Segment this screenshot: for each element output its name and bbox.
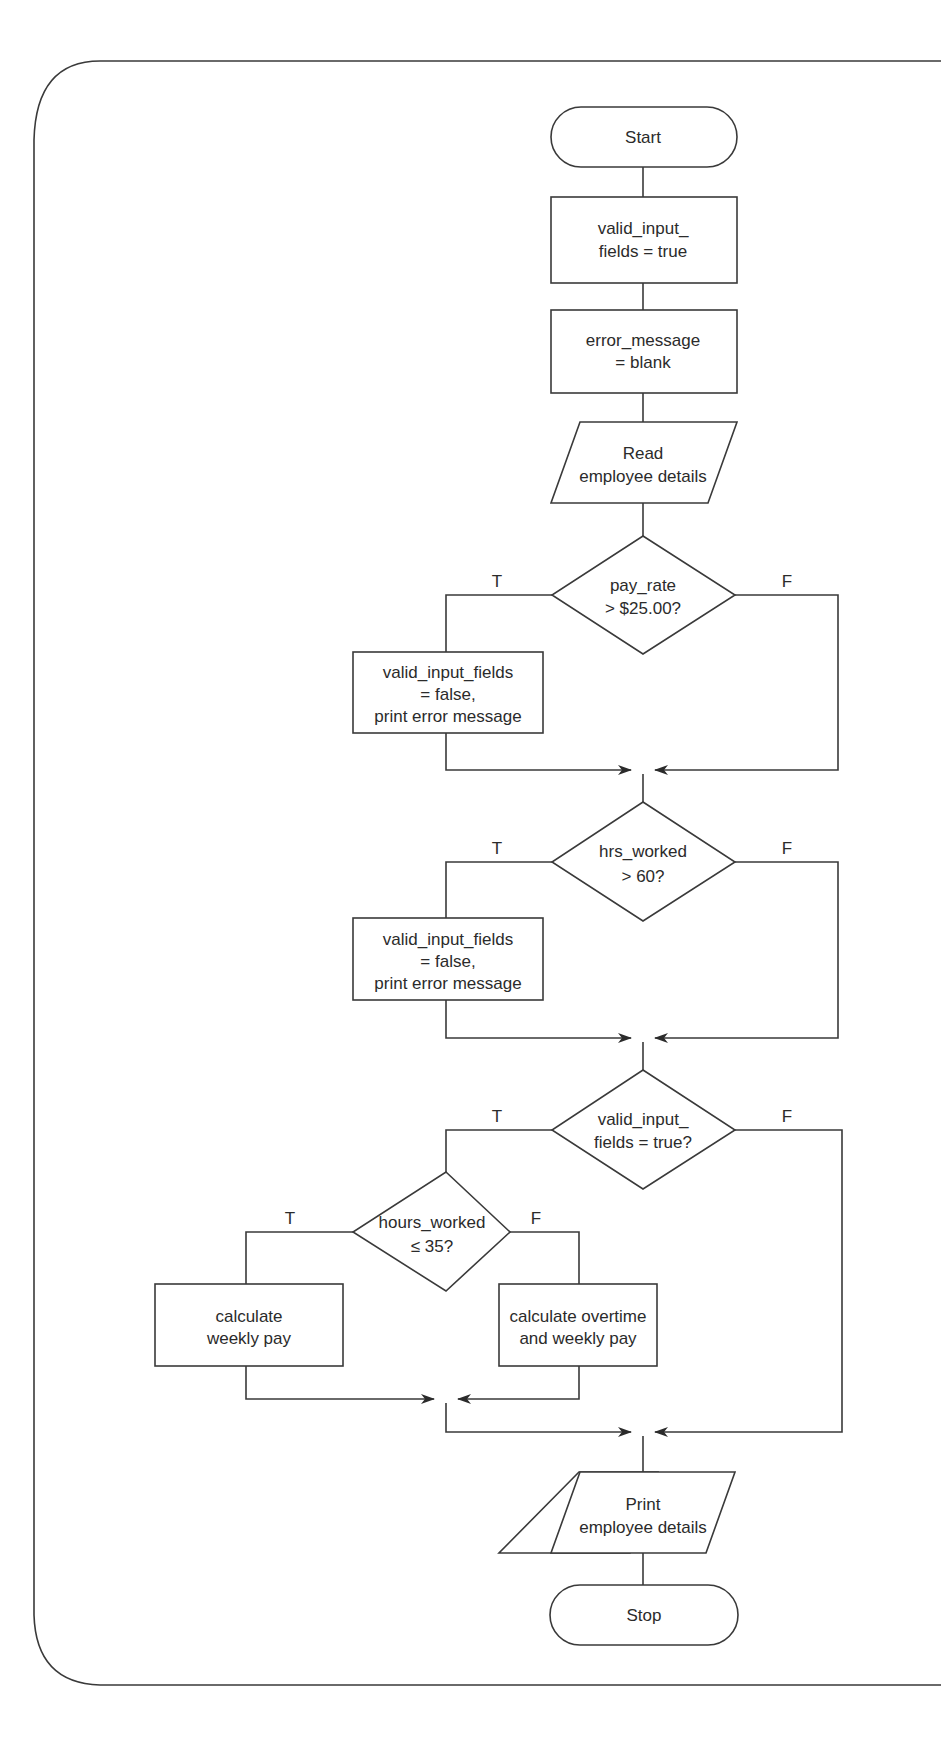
- calc-overtime-label-line1: calculate overtime: [509, 1307, 646, 1326]
- hours-35-decision: hours_worked ≤ 35?: [353, 1172, 510, 1291]
- valid-input-decision: valid_input_ fields = true?: [552, 1070, 735, 1189]
- hrs-worked-false-label: F: [782, 839, 792, 858]
- hours-35-label-line1: hours_worked: [379, 1213, 486, 1232]
- hrs-worked-decision: hrs_worked > 60?: [552, 802, 735, 921]
- print-details-label-line1: Print: [626, 1495, 661, 1514]
- init-error-label-line1: error_message: [586, 331, 700, 350]
- print-details-label-line2: employee details: [579, 1518, 707, 1537]
- page-frame: [34, 61, 941, 1685]
- hours-35-label-line2: ≤ 35?: [411, 1237, 453, 1256]
- hrs-error-process: valid_input_fields = false, print error …: [353, 918, 543, 1000]
- start-terminator: Start: [551, 107, 737, 167]
- pay-rate-decision: pay_rate > $25.00?: [552, 536, 735, 654]
- init-valid-label-line2: fields = true: [599, 242, 687, 261]
- pay-rate-false-label: F: [782, 572, 792, 591]
- calc-weekly-label-line2: weekly pay: [206, 1329, 292, 1348]
- pay-rate-error-process: valid_input_fields = false, print error …: [353, 652, 543, 733]
- hours-35-false-label: F: [531, 1209, 541, 1228]
- calc-weekly-process: calculate weekly pay: [155, 1284, 343, 1366]
- hrs-error-label-line2: = false,: [420, 952, 475, 971]
- pay-rate-label-line2: > $25.00?: [605, 599, 681, 618]
- read-details-io: Read employee details: [551, 422, 737, 503]
- valid-input-label-line1: valid_input_: [598, 1110, 689, 1129]
- read-details-label-line1: Read: [623, 444, 664, 463]
- stop-label: Stop: [627, 1606, 662, 1625]
- valid-input-false-label: F: [782, 1107, 792, 1126]
- print-details-io-shape: Print employee details: [551, 1472, 735, 1553]
- calc-overtime-label-line2: and weekly pay: [519, 1329, 637, 1348]
- flowchart-canvas: Start valid_input_ fields = true error_m…: [0, 0, 941, 1737]
- hrs-error-label-line3: print error message: [374, 974, 521, 993]
- hours-35-true-label: T: [285, 1209, 295, 1228]
- init-error-label-line2: = blank: [615, 353, 671, 372]
- valid-input-label-line2: fields = true?: [594, 1133, 692, 1152]
- connectors: [246, 167, 842, 1585]
- pay-rate-label-line1: pay_rate: [610, 576, 676, 595]
- hrs-error-label-line1: valid_input_fields: [383, 930, 513, 949]
- read-details-label-line2: employee details: [579, 467, 707, 486]
- pay-rate-error-label-line1: valid_input_fields: [383, 663, 513, 682]
- calc-overtime-process: calculate overtime and weekly pay: [499, 1284, 657, 1366]
- calc-weekly-label-line1: calculate: [215, 1307, 282, 1326]
- pay-rate-error-label-line3: print error message: [374, 707, 521, 726]
- hrs-worked-label-line1: hrs_worked: [599, 842, 687, 861]
- pay-rate-error-label-line2: = false,: [420, 685, 475, 704]
- init-valid-process: valid_input_ fields = true: [551, 197, 737, 283]
- pay-rate-true-label: T: [492, 572, 502, 591]
- init-error-process: error_message = blank: [551, 310, 737, 393]
- hrs-worked-label-line2: > 60?: [621, 867, 664, 886]
- stop-terminator: Stop: [550, 1585, 738, 1645]
- init-valid-label-line1: valid_input_: [598, 219, 689, 238]
- start-label: Start: [625, 128, 661, 147]
- hrs-worked-true-label: T: [492, 839, 502, 858]
- valid-input-true-label: T: [492, 1107, 502, 1126]
